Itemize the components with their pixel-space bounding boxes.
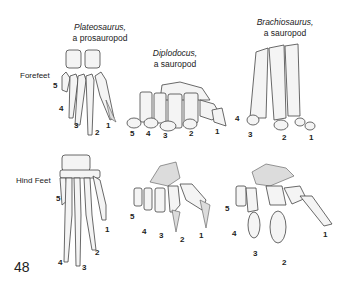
digit-label: 1 <box>106 121 110 130</box>
digit-label: 5 <box>225 204 229 213</box>
digit-label: 2 <box>189 129 193 138</box>
digit-label: 1 <box>323 230 327 239</box>
digit-label: 4 <box>58 258 62 267</box>
digit-label: 2 <box>282 133 286 142</box>
feet-illustrations <box>0 0 346 281</box>
diplodocus-forefoot-drawing <box>127 82 226 131</box>
digit-label: 3 <box>163 131 167 140</box>
digit-label: 3 <box>159 231 163 240</box>
group-name: a sauropod <box>264 28 307 38</box>
digit-label: 3 <box>74 121 78 130</box>
genus-name: Diplodocus, <box>153 48 197 58</box>
digit-label: 3 <box>82 263 86 272</box>
digit-label: 1 <box>199 231 203 240</box>
digit-label: 1 <box>215 127 219 136</box>
brachiosaurus-hindfoot-drawing <box>236 164 332 243</box>
digit-label: 4 <box>235 114 239 123</box>
page-number: 48 <box>14 259 30 275</box>
digit-label: 5 <box>56 194 60 203</box>
group-name: a sauropod <box>154 59 197 69</box>
genus-name: Plateosaurus, <box>74 22 126 32</box>
digit-label: 4 <box>142 227 146 236</box>
column-title-brachiosaurus: Brachiosaurus, a sauropod <box>245 17 325 39</box>
digit-label: 3 <box>248 130 252 139</box>
row-label-hindfeet: Hind Feet <box>16 176 51 185</box>
digit-label: 4 <box>232 229 236 238</box>
digit-label: 1 <box>105 225 109 234</box>
group-name: a prosauropod <box>73 33 128 43</box>
digit-label: 4 <box>146 129 150 138</box>
brachiosaurus-forefoot-drawing <box>247 44 315 130</box>
row-label-forefeet: Forefeet <box>20 71 50 80</box>
digit-label: 2 <box>95 248 99 257</box>
diplodocus-hindfoot-drawing <box>134 162 210 232</box>
digit-label: 1 <box>309 133 313 142</box>
column-title-plateosaurus: Plateosaurus, a prosauropod <box>60 22 140 44</box>
digit-label: 5 <box>130 129 134 138</box>
digit-label: 4 <box>59 104 63 113</box>
digit-label: 5 <box>53 81 57 90</box>
genus-name: Brachiosaurus, <box>257 17 314 27</box>
column-title-diplodocus: Diplodocus, a sauropod <box>135 48 215 70</box>
digit-label: 2 <box>282 258 286 267</box>
digit-label: 2 <box>95 128 99 137</box>
digit-label: 5 <box>130 212 134 221</box>
digit-label: 3 <box>253 249 257 258</box>
digit-label: 2 <box>180 235 184 244</box>
